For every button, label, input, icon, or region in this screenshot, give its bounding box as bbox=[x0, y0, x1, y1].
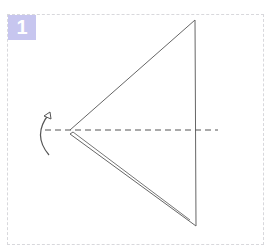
triangle-bottom-edge-inner bbox=[73, 132, 190, 220]
triangle-bottom-edge-join bbox=[70, 132, 73, 134]
triangle-bottom-edge-outer bbox=[70, 134, 196, 226]
curved-arrow-icon bbox=[41, 112, 52, 155]
triangle-top-edge bbox=[70, 20, 195, 130]
triangle-right-edge bbox=[195, 20, 196, 226]
origami-diagram bbox=[0, 0, 268, 251]
